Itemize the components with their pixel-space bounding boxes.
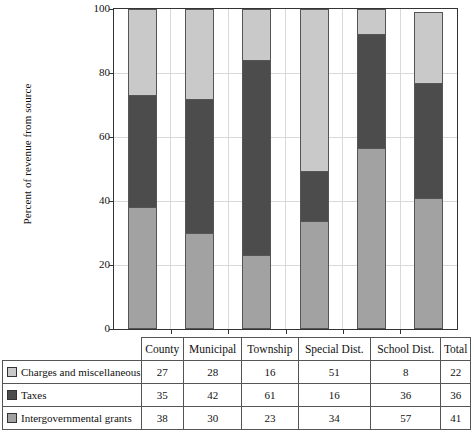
y-tick-mark [109, 329, 114, 330]
table-cell: 22 [441, 361, 471, 384]
bar-segment[interactable] [414, 198, 443, 329]
bar-column [228, 9, 285, 329]
bar-segment[interactable] [128, 9, 157, 95]
table-row-label: Intergovernmental grants [3, 407, 142, 430]
x-tick-mark [400, 329, 401, 334]
table-column-header: County [141, 338, 183, 361]
table-row: Taxes354261163636 [3, 384, 471, 407]
table-cell: 41 [441, 407, 471, 430]
table-row: Intergovernmental grants383023345741 [3, 407, 471, 430]
table-cell: 27 [141, 361, 183, 384]
table-column-header: School Dist. [371, 338, 441, 361]
stacked-bar[interactable] [128, 9, 157, 329]
table-cell: 28 [183, 361, 242, 384]
table-corner-cell [3, 338, 142, 361]
bar-segment[interactable] [357, 34, 386, 148]
legend-swatch-icon [7, 413, 17, 423]
x-tick-mark [171, 329, 172, 334]
bar-segment[interactable] [300, 171, 329, 222]
bar-segment[interactable] [128, 207, 157, 329]
table-cell: 61 [242, 384, 298, 407]
table-cell: 57 [371, 407, 441, 430]
table-cell: 8 [371, 361, 441, 384]
table-cell: 23 [242, 407, 298, 430]
legend-swatch-icon [7, 390, 17, 400]
table-column-header: Special Dist. [298, 338, 371, 361]
plot-area: 020406080100 [113, 8, 458, 330]
table-cell: 42 [183, 384, 242, 407]
table-cell: 35 [141, 384, 183, 407]
bar-column [285, 9, 342, 329]
x-tick-mark [343, 329, 344, 334]
table-header-row: CountyMunicipalTownshipSpecial Dist.Scho… [3, 338, 471, 361]
bar-segment[interactable] [185, 9, 214, 99]
bar-column [114, 9, 170, 329]
bar-segment[interactable] [242, 255, 271, 329]
table-cell: 38 [141, 407, 183, 430]
bar-segment[interactable] [300, 221, 329, 329]
x-tick-mark [286, 329, 287, 334]
bar-segment[interactable] [357, 148, 386, 329]
table-row-label: Charges and miscellaneous [3, 361, 142, 384]
table-cell: 16 [298, 384, 371, 407]
table-row: Charges and miscellaneous27281651822 [3, 361, 471, 384]
bar-segment[interactable] [185, 233, 214, 329]
table-column-header: Township [242, 338, 298, 361]
bar-segment[interactable] [242, 9, 271, 60]
table-cell: 16 [242, 361, 298, 384]
stacked-bar[interactable] [300, 9, 329, 329]
bar-segment[interactable] [242, 60, 271, 255]
table-cell: 36 [371, 384, 441, 407]
table-row-label: Taxes [3, 384, 142, 407]
stacked-bar[interactable] [357, 9, 386, 329]
table-body: Charges and miscellaneous27281651822Taxe… [3, 361, 471, 430]
bar-segment[interactable] [300, 9, 329, 171]
stacked-bar-chart-figure: Percent of revenue from source 020406080… [0, 0, 473, 434]
table-cell: 36 [441, 384, 471, 407]
stacked-bar[interactable] [414, 9, 443, 329]
bar-column [342, 9, 399, 329]
bar-column [400, 9, 457, 329]
y-axis-title: Percent of revenue from source [21, 69, 33, 239]
table-column-header: Municipal [183, 338, 242, 361]
y-tick-label: 100 [94, 3, 111, 14]
stacked-bar[interactable] [242, 9, 271, 329]
bar-segment[interactable] [357, 9, 386, 34]
x-tick-mark [228, 329, 229, 334]
stacked-bar[interactable] [185, 9, 214, 329]
table-column-header: Total [441, 338, 471, 361]
data-table: CountyMunicipalTownshipSpecial Dist.Scho… [2, 337, 471, 430]
chart-area: Percent of revenue from source 020406080… [0, 0, 473, 335]
bar-segment[interactable] [128, 95, 157, 207]
legend-swatch-icon [7, 367, 17, 377]
bar-segment[interactable] [414, 12, 443, 82]
table-cell: 34 [298, 407, 371, 430]
bar-series-container [114, 9, 457, 329]
table-cell: 51 [298, 361, 371, 384]
bar-column [170, 9, 227, 329]
bar-segment[interactable] [414, 83, 443, 198]
table-cell: 30 [183, 407, 242, 430]
bar-segment[interactable] [185, 99, 214, 233]
